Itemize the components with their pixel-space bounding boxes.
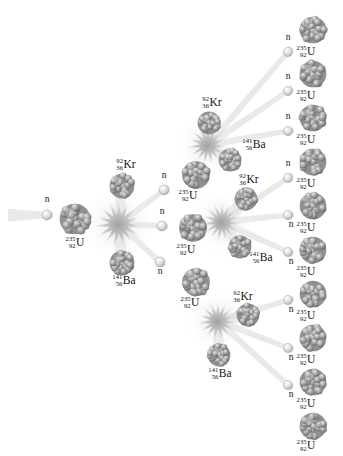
label-uranium-gen2-7-numbers: 23592 — [297, 309, 307, 323]
label-uranium-gen2-7-symbol: U — [307, 310, 315, 322]
neutron-gen2-6 — [283, 247, 292, 256]
label-uranium-gen2-5-numbers: 23592 — [297, 221, 307, 235]
label-uranium-gen2-9: 23592U — [297, 397, 316, 411]
label-uranium-gen2-1-numbers: 23592 — [297, 45, 307, 59]
label-uranium-gen2-8-atomic-number: 92 — [297, 360, 307, 367]
label-neutron-gen1-a: n — [162, 171, 167, 181]
label-uranium-gen2-4-atomic-number: 92 — [297, 184, 307, 191]
label-barium-gen2-top-numbers: 14156 — [242, 138, 252, 152]
target-uranium-gen2-7 — [300, 281, 327, 308]
label-neutron-gen1-b: n — [160, 207, 165, 217]
neutron-gen2-7 — [283, 295, 292, 304]
label-uranium-gen2-1-symbol: U — [307, 46, 315, 58]
label-uranium-gen2-5-atomic-number: 92 — [297, 228, 307, 235]
label-krypton-gen1-symbol: Kr — [124, 159, 136, 171]
neutron-gen2-8 — [283, 343, 292, 352]
fragment-barium-gen2-bot — [207, 343, 231, 366]
label-uranium-gen1-mid-numbers: 23592 — [177, 243, 187, 257]
label-uranium-gen2-8-symbol: U — [307, 354, 315, 366]
label-uranium-gen2-6-atomic-number: 92 — [297, 272, 307, 279]
label-uranium-gen2-4-symbol: U — [307, 178, 315, 190]
label-barium-gen2-bot: 14156Ba — [208, 367, 231, 381]
target-uranium-gen2-4 — [300, 149, 327, 176]
label-uranium-gen2-7-atomic-number: 92 — [297, 316, 307, 323]
neutron-gen2-1 — [283, 47, 292, 56]
label-krypton-gen2-bot-symbol: Kr — [241, 291, 253, 303]
label-neutron-gen2-7: n — [289, 305, 294, 315]
label-barium-gen2-mid: 14156Ba — [249, 251, 272, 265]
target-uranium-gen2-2 — [300, 60, 327, 88]
target-uranium-gen2-5 — [300, 192, 327, 220]
label-krypton-gen2-mid-numbers: 9236 — [239, 173, 246, 187]
label-uranium-gen2-7: 23592U — [297, 309, 316, 323]
label-uranium-gen1-bot-atomic-number: 92 — [181, 303, 191, 310]
label-krypton-gen1: 9236Kr — [116, 158, 135, 172]
label-neutron-gen2-2: n — [286, 72, 291, 82]
label-uranium-gen1-mid-symbol: U — [187, 244, 195, 256]
label-uranium-gen0-atomic-number: 92 — [66, 243, 76, 250]
neutron-gen2-5 — [283, 210, 292, 219]
label-neutron-gen1-c: n — [158, 267, 163, 277]
label-uranium-gen0-symbol: U — [76, 237, 84, 249]
label-barium-gen1-atomic-number: 56 — [112, 281, 122, 288]
label-barium-gen1: 14156Ba — [112, 274, 135, 288]
label-uranium-gen2-3: 23592U — [297, 133, 316, 147]
label-barium-gen2-bot-numbers: 14156 — [208, 367, 218, 381]
label-barium-gen2-mid-numbers: 14156 — [249, 251, 259, 265]
label-barium-gen1-symbol: Ba — [123, 275, 136, 287]
neutron-gen2-9 — [283, 380, 292, 389]
target-uranium-gen2-1 — [299, 16, 327, 44]
label-neutron-gen2-8: n — [289, 353, 294, 363]
label-uranium-gen1-bot-symbol: U — [191, 297, 199, 309]
label-uranium-gen2-6-symbol: U — [307, 266, 315, 278]
label-uranium-gen2-4-numbers: 23592 — [297, 177, 307, 191]
label-krypton-gen2-top-atomic-number: 36 — [202, 103, 209, 110]
label-uranium-gen1-top-atomic-number: 92 — [179, 196, 189, 203]
bursts-layer — [80, 112, 256, 355]
label-uranium-gen2-3-symbol: U — [307, 134, 315, 146]
label-barium-gen2-top: 14156Ba — [242, 138, 265, 152]
label-uranium-gen1-mid-atomic-number: 92 — [177, 250, 187, 257]
label-uranium-gen2-6: 23592U — [297, 265, 316, 279]
label-krypton-gen2-top-symbol: Kr — [210, 97, 222, 109]
target-uranium-gen1-bot — [182, 268, 210, 297]
label-uranium-gen1-bot-numbers: 23592 — [181, 296, 191, 310]
fission-chain-reaction-figure: n23592U9236Kr14156Bannn23592U23592U23592… — [0, 0, 343, 456]
label-krypton-gen1-atomic-number: 36 — [116, 165, 123, 172]
label-uranium-gen2-6-numbers: 23592 — [297, 265, 307, 279]
label-neutron-gen2-3: n — [286, 112, 291, 122]
fragment-krypton-gen2-mid — [235, 187, 259, 210]
label-uranium-gen2-10-numbers: 23592 — [297, 439, 307, 453]
label-uranium-gen0: 23592U — [66, 236, 85, 250]
label-uranium-gen2-1: 23592U — [297, 45, 316, 59]
label-barium-gen2-mid-atomic-number: 56 — [249, 258, 259, 265]
label-uranium-gen2-9-symbol: U — [307, 398, 315, 410]
label-barium-gen2-top-atomic-number: 56 — [242, 145, 252, 152]
label-uranium-gen2-8: 23592U — [297, 353, 316, 367]
label-krypton-gen2-bot: 9236Kr — [233, 290, 252, 304]
target-uranium-gen2-3 — [298, 105, 326, 132]
label-uranium-gen2-10-symbol: U — [307, 440, 315, 452]
label-uranium-gen2-5: 23592U — [297, 221, 316, 235]
label-uranium-gen2-9-atomic-number: 92 — [297, 404, 307, 411]
label-uranium-gen0-numbers: 23592 — [66, 236, 76, 250]
label-krypton-gen1-numbers: 9236 — [116, 158, 123, 172]
label-uranium-gen1-top-numbers: 23592 — [179, 189, 189, 203]
neutron-gen2-4 — [283, 173, 292, 182]
label-uranium-gen1-mid: 23592U — [177, 243, 196, 257]
target-uranium-gen2-10 — [300, 413, 327, 440]
label-barium-gen2-bot-atomic-number: 56 — [208, 374, 218, 381]
label-uranium-gen1-bot: 23592U — [181, 296, 200, 310]
label-barium-gen2-top-symbol: Ba — [253, 139, 266, 151]
label-uranium-gen2-2: 23592U — [297, 89, 316, 103]
neutron-gen2-2 — [283, 86, 292, 95]
label-uranium-gen2-1-atomic-number: 92 — [297, 52, 307, 59]
label-uranium-gen2-3-atomic-number: 92 — [297, 140, 307, 147]
label-krypton-gen2-bot-atomic-number: 36 — [233, 297, 240, 304]
label-uranium-gen2-4: 23592U — [297, 177, 316, 191]
label-neutron-gen2-9: n — [289, 390, 294, 400]
label-krypton-gen2-top-numbers: 9236 — [202, 96, 209, 110]
label-krypton-gen2-top: 9236Kr — [202, 96, 221, 110]
label-barium-gen1-numbers: 14156 — [112, 274, 122, 288]
target-uranium-gen2-9 — [300, 368, 327, 395]
